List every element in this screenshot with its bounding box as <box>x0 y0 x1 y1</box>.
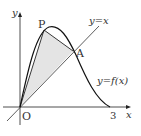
graph-diagram: y x O 3 P A y=x y=f(x) <box>0 0 141 136</box>
shaded-triangle-opa <box>20 30 73 107</box>
y-axis-arrow-icon <box>18 12 22 17</box>
curve-label: y=f(x) <box>97 76 128 86</box>
line-label: y=x <box>89 16 109 26</box>
x-tick-3-label: 3 <box>110 111 116 121</box>
origin-label: O <box>22 111 31 122</box>
point-p-label: P <box>38 19 45 30</box>
y-axis-label: y <box>12 8 18 18</box>
point-a-label: A <box>76 48 84 59</box>
x-axis-label: x <box>126 110 132 120</box>
